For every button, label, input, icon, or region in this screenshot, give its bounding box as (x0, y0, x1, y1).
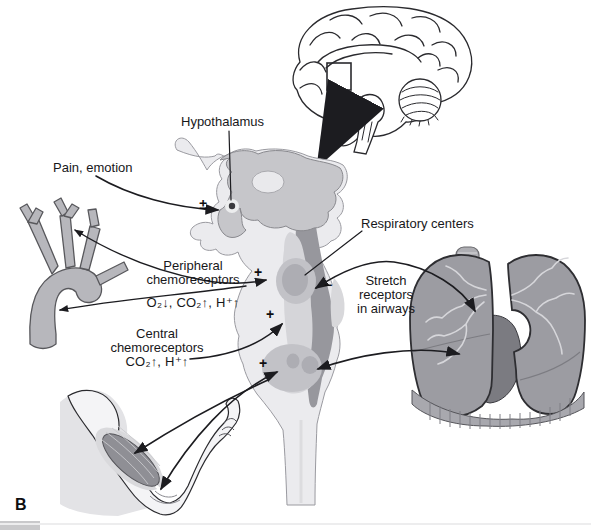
page-edge-line (0, 523, 591, 525)
label-central-formula: CO₂↑, H⁺↑ (110, 355, 203, 369)
label-peripheral-chemoreceptors: Peripheral chemoreceptors O₂↓, CO₂↑, H⁺↑ (146, 259, 239, 310)
pontine-center-inner (282, 264, 308, 296)
label-peripheral-formula: O₂↓, CO₂↑, H⁺↑ (146, 296, 239, 310)
figure-illustration (0, 0, 591, 530)
sign-peripheral-plus: + (254, 264, 262, 280)
brain-inset-illustration (293, 7, 472, 154)
sign-muscle-plus: + (259, 355, 267, 371)
sign-stretch-minus: − (324, 277, 332, 293)
sign-central-plus: + (266, 306, 274, 322)
figure-respiratory-control: Hypothalamus Pain, emotion Respiratory c… (0, 0, 591, 530)
aortic-arch-illustration (20, 198, 128, 349)
hypothalamus-dot (229, 203, 235, 209)
label-stretch-receptors: Stretch receptors in airways (357, 274, 415, 316)
label-pain-emotion: Pain, emotion (53, 161, 133, 175)
brainstem-illustration (175, 138, 347, 505)
arm-illustration (60, 390, 240, 516)
panel-label: B (15, 496, 27, 514)
lungs-illustration (410, 247, 585, 429)
medullary-center-left (287, 354, 300, 369)
label-hypothalamus: Hypothalamus (181, 115, 264, 129)
muscle-brainstem-arrow (135, 380, 268, 453)
label-central-chemoreceptors: Central chemoreceptors CO₂↑, H⁺↑ (110, 327, 203, 369)
label-respiratory-centers: Respiratory centers (361, 217, 474, 231)
sign-pain-plus-minus: ± (199, 196, 207, 212)
medullary-center-right (302, 356, 319, 374)
